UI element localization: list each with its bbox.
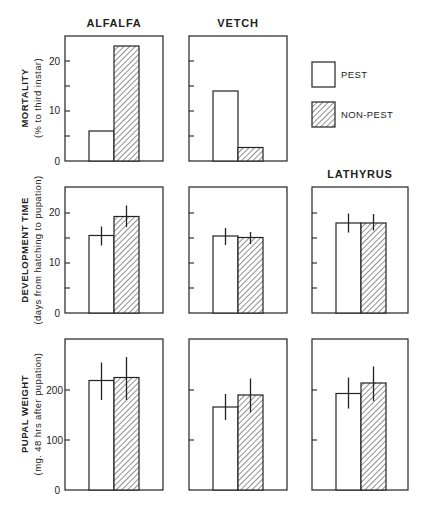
svg-text:20: 20 (49, 56, 61, 67)
legend-swatch-pest (312, 62, 335, 87)
svg-text:10: 10 (49, 105, 61, 116)
bar-pest (89, 131, 114, 161)
svg-text:200: 200 (46, 385, 63, 396)
legend: PEST NON-PEST (312, 62, 393, 127)
title-vetch: VETCH (217, 17, 258, 29)
svg-text:MORTALITY: MORTALITY (19, 68, 30, 127)
svg-text:0: 0 (54, 156, 60, 167)
panel-0-1 (189, 36, 287, 161)
bar-pest (213, 236, 238, 313)
title-alfalfa: ALFALFA (86, 17, 141, 29)
panel-2-2 (312, 339, 408, 490)
bar-pest (89, 236, 114, 314)
title-lathyrus: LATHYRUS (327, 168, 392, 180)
svg-text:(mg. 48 hrs after pupation): (mg. 48 hrs after pupation) (32, 353, 43, 476)
svg-text:100: 100 (46, 435, 63, 446)
ylabel-mortality: MORTALITY (% to third instar) (19, 58, 43, 138)
bar-non-pest (238, 238, 263, 314)
figure: ALFALFA VETCH LATHYRUS MORTALITY (% to t… (0, 0, 424, 505)
bar-pest (336, 223, 361, 313)
svg-text:20: 20 (49, 207, 61, 218)
svg-text:DEVELOPMENT TIME: DEVELOPMENT TIME (19, 197, 30, 303)
panel-1-2 (312, 187, 408, 313)
bar-non-pest (114, 46, 139, 161)
svg-text:(% to third instar): (% to third instar) (32, 58, 43, 138)
legend-label-pest: PEST (341, 69, 367, 80)
panels (65, 36, 408, 490)
svg-text:PUPAL WEIGHT: PUPAL WEIGHT (19, 375, 30, 453)
panel-1-1 (189, 187, 287, 313)
svg-text:10: 10 (49, 257, 61, 268)
panel-2-1 (189, 339, 287, 490)
bar-non-pest (114, 217, 139, 314)
panel-1-0 (65, 187, 163, 313)
ylabel-development-time: DEVELOPMENT TIME (days from hatching to … (19, 175, 43, 324)
ylabel-pupal-weight: PUPAL WEIGHT (mg. 48 hrs after pupation) (19, 353, 43, 476)
panel-0-0 (65, 36, 163, 161)
legend-label-non-pest: NON-PEST (341, 109, 393, 120)
svg-text:(days from hatching to pupatio: (days from hatching to pupation) (32, 175, 43, 324)
bar-pest (213, 91, 238, 161)
legend-swatch-non-pest (312, 102, 335, 127)
bar-non-pest (238, 148, 263, 162)
ytick-labels: 0 10 20 0 10 20 0 100 200 (46, 56, 63, 496)
panel-2-0 (65, 339, 163, 490)
bar-non-pest (361, 223, 386, 313)
svg-text:0: 0 (54, 485, 60, 496)
svg-text:0: 0 (54, 308, 60, 319)
